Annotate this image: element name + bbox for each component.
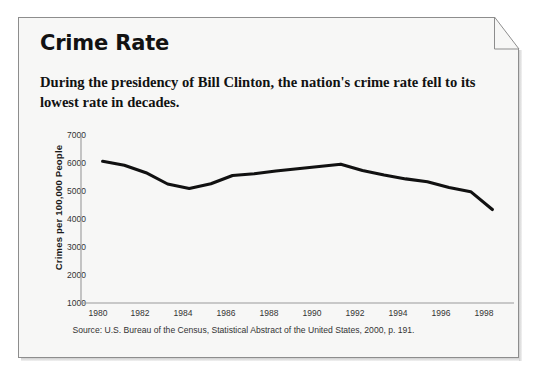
- card-top-border: [18, 17, 495, 18]
- x-tick-label: 1980: [78, 308, 118, 318]
- plot-area: [26, 126, 516, 326]
- x-tick-label: 1994: [378, 308, 418, 318]
- screenshot-root: Crime Rate During the presidency of Bill…: [0, 0, 549, 374]
- x-tick-label: 1988: [249, 308, 289, 318]
- x-tick-label: 1986: [206, 308, 246, 318]
- data-line-series: [103, 161, 493, 209]
- page-subtitle: During the presidency of Bill Clinton, t…: [40, 72, 480, 112]
- line-chart: Crimes per 100,000 People 7000 6000 5000…: [26, 126, 516, 326]
- x-tick-label: 1990: [292, 308, 332, 318]
- card-shadow-bottom: [21, 358, 521, 361]
- x-tick-label: 1996: [421, 308, 461, 318]
- page-title: Crime Rate: [40, 31, 169, 55]
- x-tick-label: 1982: [120, 308, 160, 318]
- card-shadow-right: [519, 50, 522, 361]
- x-tick-label: 1984: [163, 308, 203, 318]
- source-caption: Source: U.S. Bureau of the Census, Stati…: [0, 325, 501, 335]
- x-tick-label: 1998: [464, 308, 504, 318]
- x-tick-label: 1992: [335, 308, 375, 318]
